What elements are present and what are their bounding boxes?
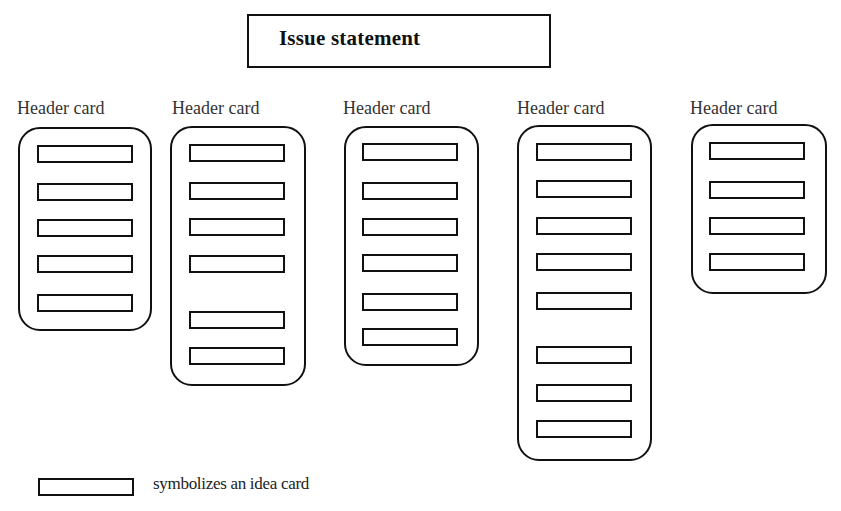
idea-card — [189, 347, 285, 365]
idea-card — [37, 294, 133, 312]
header-card-label: Header card — [690, 98, 777, 119]
idea-card — [536, 253, 632, 271]
issue-statement-text: Issue statement — [279, 26, 420, 51]
idea-card — [709, 181, 805, 199]
legend-idea-card-symbol — [38, 478, 134, 496]
header-card-label: Header card — [17, 98, 104, 119]
idea-card — [362, 182, 458, 200]
header-card-label: Header card — [172, 98, 259, 119]
idea-card — [362, 254, 458, 272]
idea-card — [189, 255, 285, 273]
legend-text: symbolizes an idea card — [153, 474, 309, 494]
idea-card — [536, 180, 632, 198]
idea-card — [189, 311, 285, 329]
idea-card — [536, 143, 632, 161]
idea-card — [189, 182, 285, 200]
header-card-label: Header card — [517, 98, 604, 119]
idea-card — [37, 145, 133, 163]
idea-card — [189, 144, 285, 162]
idea-card — [362, 218, 458, 236]
idea-card — [37, 255, 133, 273]
idea-card — [37, 219, 133, 237]
issue-statement-box: Issue statement — [247, 14, 551, 68]
idea-card — [536, 384, 632, 402]
idea-card — [709, 253, 805, 271]
idea-card — [536, 420, 632, 438]
idea-card — [536, 346, 632, 364]
idea-card — [362, 143, 458, 161]
idea-card — [362, 293, 458, 311]
idea-card — [709, 217, 805, 235]
idea-card — [536, 292, 632, 310]
header-card-label: Header card — [343, 98, 430, 119]
idea-card — [709, 142, 805, 160]
idea-card — [362, 328, 458, 346]
idea-card — [536, 217, 632, 235]
idea-card — [189, 218, 285, 236]
idea-card — [37, 183, 133, 201]
